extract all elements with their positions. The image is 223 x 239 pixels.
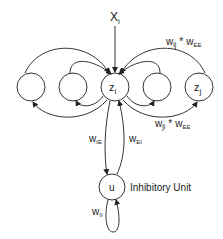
node-far-left bbox=[17, 73, 45, 101]
arc-u-to-zi bbox=[117, 101, 124, 174]
weight-wji-wee: wji*wEE bbox=[154, 118, 191, 131]
inhibitory-caption: Inhibitory Unit bbox=[130, 182, 191, 193]
weight-wei: wEI bbox=[128, 133, 142, 145]
u-label: u bbox=[109, 182, 115, 193]
arc-zi-to-u bbox=[105, 101, 110, 174]
input-label: Xi bbox=[110, 10, 120, 26]
weight-wie: wIE bbox=[88, 133, 102, 145]
arc-left-to-zi bbox=[70, 61, 111, 74]
weight-wii: wII bbox=[91, 206, 103, 218]
self-loop-u bbox=[106, 200, 119, 232]
weight-wij-wee: wij*wEE bbox=[165, 36, 202, 49]
network-diagram: Xi zi zj u Inhibitory Unit wij*wEE wji*w… bbox=[0, 0, 223, 239]
node-right bbox=[143, 73, 171, 101]
arc-zj-to-zi bbox=[121, 48, 205, 73]
arc-farleft-to-zi bbox=[25, 48, 109, 73]
node-left bbox=[59, 73, 87, 101]
arc-right-to-zi bbox=[119, 61, 160, 74]
